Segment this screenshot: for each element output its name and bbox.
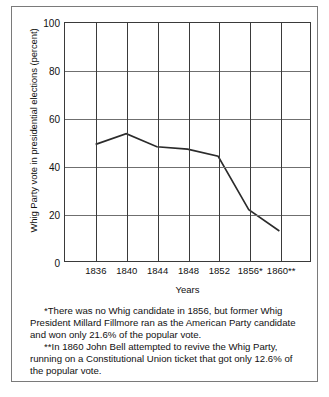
x-tick-label: 1852 <box>209 265 230 276</box>
x-tick-label: 1848 <box>178 265 199 276</box>
plot-area: 020406080100183618401844184818521856*186… <box>64 22 311 262</box>
x-tick-label: 1844 <box>147 265 168 276</box>
x-tick-label: 1860** <box>267 265 296 276</box>
gridline-vertical <box>96 23 97 261</box>
gridline-vertical <box>219 23 220 261</box>
x-tick-label: 1836 <box>85 265 106 276</box>
figure-container: Whig Party vote in presidential election… <box>11 6 318 382</box>
gridline-vertical <box>281 23 282 261</box>
whig-vote-line <box>96 134 280 231</box>
y-tick-label: 20 <box>49 210 60 221</box>
gridline-horizontal <box>65 215 310 216</box>
gridline-horizontal <box>65 167 310 168</box>
x-axis-title: Years <box>64 284 311 295</box>
gridline-vertical <box>250 23 251 261</box>
y-tick-label: 100 <box>43 18 60 29</box>
x-tick-label: 1840 <box>116 265 137 276</box>
gridline-vertical <box>127 23 128 261</box>
chart-area: Whig Party vote in presidential election… <box>12 7 319 307</box>
y-axis-title: Whig Party vote in presidential election… <box>28 6 39 256</box>
footnote-1856: *There was no Whig candidate in 1856, bu… <box>30 305 302 341</box>
data-series-line <box>65 23 310 261</box>
y-tick-label: 40 <box>49 162 60 173</box>
gridline-horizontal <box>65 119 310 120</box>
x-tick-label: 1856* <box>238 265 263 276</box>
gridline-vertical <box>189 23 190 261</box>
gridline-vertical <box>158 23 159 261</box>
y-tick-label: 60 <box>49 114 60 125</box>
footnotes-block: *There was no Whig candidate in 1856, bu… <box>30 305 302 378</box>
footnote-1860: **In 1860 John Bell attempted to revive … <box>30 341 302 377</box>
y-tick-label: 0 <box>54 258 60 269</box>
y-tick-label: 80 <box>49 66 60 77</box>
gridline-horizontal <box>65 71 310 72</box>
